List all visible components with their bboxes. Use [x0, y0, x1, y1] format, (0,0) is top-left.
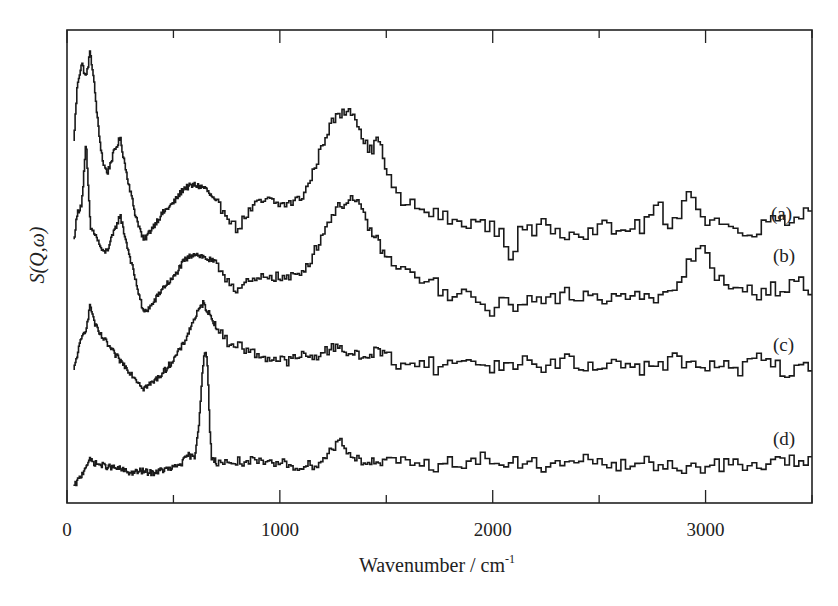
x-tick-label-3000: 3000 — [687, 519, 725, 540]
curve-group — [73, 51, 812, 485]
x-axis-title-superscript: -1 — [505, 552, 515, 566]
x-tick-label-1000: 1000 — [261, 519, 299, 540]
spectrum-curve-b — [73, 147, 812, 317]
x-axis-title: Wavenumber / cm-1 — [359, 552, 515, 576]
curve-label-c: (c) — [773, 334, 794, 356]
curve-labels: (a) (b) (c) (d) — [771, 203, 795, 450]
spectrum-curve-a — [73, 51, 812, 260]
spectrum-curve-c — [73, 301, 812, 391]
curve-label-a: (a) — [771, 203, 792, 225]
y-axis-title: S(Q,ω) — [26, 226, 49, 283]
spectra-chart: 0 1000 2000 3000 Wavenumber / cm-1 S(Q,ω… — [0, 0, 838, 606]
curve-label-d: (d) — [773, 428, 795, 450]
x-tick-labels: 0 1000 2000 3000 — [62, 519, 724, 540]
x-axis-title-main: Wavenumber / cm — [359, 554, 506, 576]
curve-label-b: (b) — [773, 245, 795, 267]
x-tick-label-2000: 2000 — [474, 519, 512, 540]
spectrum-curve-d — [73, 353, 812, 486]
x-tick-label-0: 0 — [62, 519, 72, 540]
plot-area — [67, 30, 812, 503]
